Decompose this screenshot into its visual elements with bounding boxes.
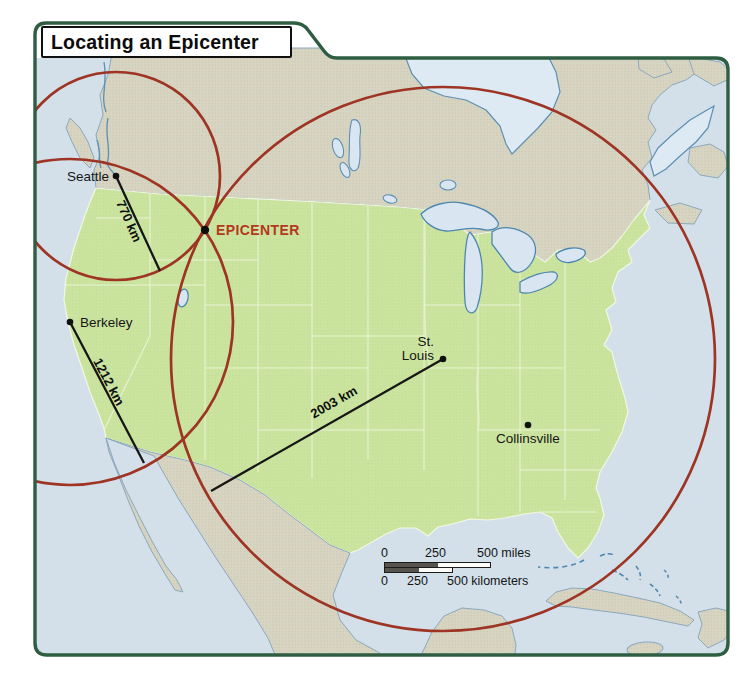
scale-miles-500: 500 miles: [477, 546, 531, 560]
scale-bar-km-empty: [419, 568, 452, 572]
city-dot-collinsville: [525, 422, 532, 429]
city-label-st-louis: St.: [417, 334, 434, 349]
map-scale-bar: 0 250 500 miles 0 250 500 kilometers: [381, 546, 551, 590]
city-label-collinsville: Collinsville: [496, 431, 560, 446]
hispaniola: [698, 608, 738, 648]
city-label-st-louis: Louis: [402, 348, 435, 363]
scale-km-500: 500 kilometers: [447, 574, 528, 588]
scale-miles-zero: 0: [381, 546, 388, 560]
scale-miles-250: 250: [425, 546, 446, 560]
figure-title-box: Locating an Epicenter: [41, 26, 292, 58]
city-label-berkeley: Berkeley: [80, 315, 133, 330]
city-dot-st-louis: [440, 356, 447, 363]
city-dot-seattle: [113, 173, 120, 180]
scale-bar-km-filled: [385, 568, 419, 572]
city-label-seattle: Seattle: [67, 169, 109, 184]
city-dot-berkeley: [67, 319, 74, 326]
figure-title: Locating an Epicenter: [43, 31, 259, 54]
epicenter-dot: [201, 226, 209, 234]
scale-bar-kilometers: [384, 567, 453, 573]
epicenter-label: EPICENTER: [216, 222, 300, 238]
epicenter-figure: Seattle770 kmBerkeley1212 kmSt.Louis2003…: [0, 0, 753, 693]
epicenter-map: Seattle770 kmBerkeley1212 kmSt.Louis2003…: [0, 0, 753, 693]
scale-km-zero: 0: [381, 574, 388, 588]
scale-km-250: 250: [407, 574, 428, 588]
